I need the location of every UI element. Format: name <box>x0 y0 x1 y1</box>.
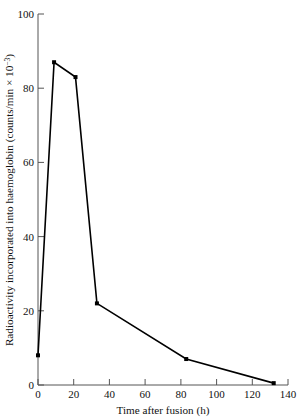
y-tick-label-20: 20 <box>23 305 35 317</box>
y-tick-label-100: 100 <box>18 8 35 20</box>
figure-container: 100 80 60 40 20 0 0 20 40 60 80 100 120 <box>0 0 299 420</box>
data-point <box>95 301 99 305</box>
y-axis-title: Radioactivity incorporated into haemoglo… <box>3 54 17 346</box>
x-tick-label-0: 0 <box>35 388 41 400</box>
x-tick-label-80: 80 <box>175 388 187 400</box>
x-axis-ticks <box>38 379 288 385</box>
x-tick-label-100: 100 <box>208 388 225 400</box>
y-tick-label-0: 0 <box>29 379 35 391</box>
data-point <box>52 60 56 64</box>
data-point <box>184 357 188 361</box>
data-point <box>36 353 40 357</box>
data-point <box>272 381 276 385</box>
y-tick-label-40: 40 <box>23 231 35 243</box>
x-tick-label-20: 20 <box>68 388 80 400</box>
data-series-line <box>38 62 274 383</box>
line-chart: 100 80 60 40 20 0 0 20 40 60 80 100 120 <box>0 0 299 420</box>
data-series-markers <box>36 60 276 385</box>
x-tick-label-40: 40 <box>104 388 116 400</box>
x-tick-label-140: 140 <box>280 388 297 400</box>
data-point <box>74 75 78 79</box>
x-tick-label-60: 60 <box>140 388 152 400</box>
y-tick-label-60: 60 <box>23 156 35 168</box>
x-axis-tick-labels: 0 20 40 60 80 100 120 140 <box>35 388 297 400</box>
y-axis-tick-labels: 100 80 60 40 20 0 <box>18 8 35 391</box>
x-axis-title: Time after fusion (h) <box>116 404 209 417</box>
y-tick-label-80: 80 <box>23 82 35 94</box>
x-tick-label-120: 120 <box>244 388 261 400</box>
